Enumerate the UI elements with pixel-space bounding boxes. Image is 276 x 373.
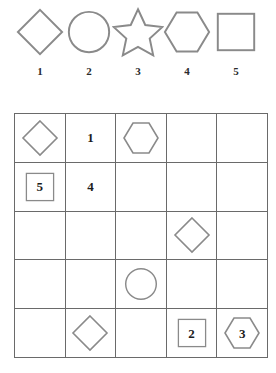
hexagon-icon [159, 6, 215, 62]
grid-cell-value: 3 [239, 327, 246, 340]
grid-cell-content [167, 163, 217, 211]
grid-cell-r4c1[interactable] [15, 260, 66, 309]
grid-cell-r3c2[interactable] [65, 211, 116, 260]
grid-cell-content [167, 114, 217, 162]
grid-row: 1 [15, 114, 268, 163]
grid-cell-content [167, 212, 217, 260]
grid-cell-r5c4[interactable]: 2 [166, 309, 217, 358]
legend-item-5: 5 [208, 6, 264, 92]
grid-cell-content [66, 260, 116, 308]
grid-cell-value: 4 [87, 180, 94, 193]
grid-cell-content: 5 [15, 163, 65, 211]
grid-cell-r1c1[interactable] [15, 114, 66, 163]
grid-cell-r3c1[interactable] [15, 211, 66, 260]
legend-item-2: 2 [61, 6, 117, 92]
circle-icon [123, 266, 159, 302]
grid-cell-r3c5[interactable] [217, 211, 268, 260]
grid-cell-r3c3[interactable] [116, 211, 167, 260]
grid-cell-r2c2[interactable]: 4 [65, 162, 116, 211]
grid-cell-r5c2[interactable] [65, 309, 116, 358]
grid-cell-r2c4[interactable] [166, 162, 217, 211]
grid-cell-r4c4[interactable] [166, 260, 217, 309]
legend-item-4: 4 [159, 6, 215, 92]
grid-cell-r4c5[interactable] [217, 260, 268, 309]
grid-cell-r2c3[interactable] [116, 162, 167, 211]
grid-cell-content [66, 212, 116, 260]
grid-cell-content: 1 [66, 114, 116, 162]
star-icon [110, 6, 166, 62]
legend-item-3: 3 [110, 6, 166, 92]
grid-cell-r1c4[interactable] [166, 114, 217, 163]
circle-icon [61, 6, 117, 62]
grid-cell-content: 4 [66, 163, 116, 211]
grid-cell-content [217, 114, 267, 162]
hexagon-icon [121, 118, 161, 158]
grid-cell-content [15, 260, 65, 308]
grid-cell-r2c5[interactable] [217, 162, 268, 211]
diamond-icon [70, 313, 110, 353]
grid-cell-r5c5[interactable]: 3 [217, 309, 268, 358]
grid-cell-content [66, 309, 116, 357]
square-icon [208, 6, 264, 62]
grid-row: 54 [15, 162, 268, 211]
grid-cell-content [15, 309, 65, 357]
grid-cell-content [116, 212, 166, 260]
grid-cell-r4c3[interactable] [116, 260, 167, 309]
diamond-icon [172, 215, 212, 255]
grid-cell-r2c1[interactable]: 5 [15, 162, 66, 211]
grid-cell-r4c2[interactable] [65, 260, 116, 309]
grid-cell-content [116, 114, 166, 162]
puzzle-grid: 15423 [14, 113, 268, 358]
grid-cell-content [15, 114, 65, 162]
grid-cell-r3c4[interactable] [166, 211, 217, 260]
grid-row: 23 [15, 309, 268, 358]
grid-cell-content [217, 260, 267, 308]
diamond-icon [20, 118, 60, 158]
grid-cell-r5c3[interactable] [116, 309, 167, 358]
grid-cell-content: 2 [167, 309, 217, 357]
grid-cell-content [116, 309, 166, 357]
legend-item-label: 2 [61, 64, 117, 78]
grid-cell-value: 1 [87, 131, 94, 144]
grid-cell-content: 3 [217, 309, 267, 357]
grid-cell-r1c5[interactable] [217, 114, 268, 163]
grid-row [15, 211, 268, 260]
legend-item-label: 5 [208, 64, 264, 78]
legend-item-1: 1 [12, 6, 68, 92]
diamond-icon [12, 6, 68, 62]
grid-cell-content [167, 260, 217, 308]
grid-cell-value: 5 [37, 180, 44, 193]
grid-cell-content [116, 163, 166, 211]
grid-row [15, 260, 268, 309]
grid-cell-r1c2[interactable]: 1 [65, 114, 116, 163]
legend-item-label: 1 [12, 64, 68, 78]
shape-legend: 12345 [0, 0, 276, 92]
grid-cell-content [217, 163, 267, 211]
grid-cell-value: 2 [188, 327, 195, 340]
legend-item-label: 4 [159, 64, 215, 78]
puzzle-grid-container: 15423 [14, 113, 262, 352]
grid-cell-content [116, 260, 166, 308]
grid-cell-r5c1[interactable] [15, 309, 66, 358]
grid-cell-content [217, 212, 267, 260]
legend-item-label: 3 [110, 64, 166, 78]
grid-cell-r1c3[interactable] [116, 114, 167, 163]
grid-cell-content [15, 212, 65, 260]
